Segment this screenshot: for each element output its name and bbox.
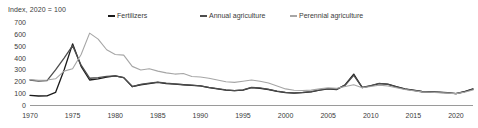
- series-line-perennial-agriculture: [30, 33, 473, 93]
- series-line-annual-agriculture: [30, 46, 473, 94]
- chart-series-layer: [30, 33, 473, 96]
- series-line-fertilizers: [30, 44, 473, 96]
- chart-root: Index, 2020 = 100 Fertilizers Annual agr…: [0, 0, 478, 128]
- chart-plot-area: [0, 0, 478, 128]
